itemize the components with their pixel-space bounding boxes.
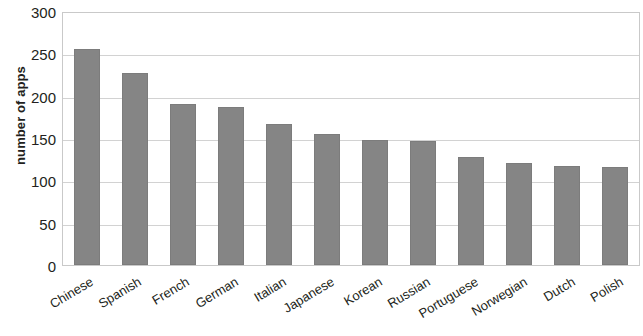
bar-slot <box>447 13 495 265</box>
y-axis-tick-labels: 300250200150100500 <box>0 0 56 336</box>
bar-slot <box>495 13 543 265</box>
bar <box>602 167 628 265</box>
y-axis-tick-label: 300 <box>0 5 56 20</box>
bar-slot <box>543 13 591 265</box>
bar <box>458 157 484 265</box>
y-axis-tick-label: 150 <box>0 132 56 147</box>
bar <box>122 73 148 265</box>
bar <box>314 134 340 265</box>
x-axis-tick-slot: Polish <box>592 268 640 336</box>
bar-slot <box>351 13 399 265</box>
bars-group <box>63 13 639 265</box>
bar-slot <box>207 13 255 265</box>
bar <box>74 49 100 265</box>
y-axis-tick-label: 200 <box>0 89 56 104</box>
bar-chart: number of apps 300250200150100500 Chines… <box>0 0 643 336</box>
bar-slot <box>399 13 447 265</box>
bar-slot <box>255 13 303 265</box>
y-axis-tick-label: 100 <box>0 174 56 189</box>
bar <box>554 166 580 265</box>
bar <box>506 163 532 265</box>
bar-slot <box>303 13 351 265</box>
plot-area <box>62 12 640 266</box>
bar <box>362 140 388 265</box>
x-axis-tick-labels: ChineseSpanishFrenchGermanItalianJapanes… <box>62 268 640 336</box>
bar-slot <box>591 13 639 265</box>
bar <box>170 104 196 265</box>
bar-slot <box>111 13 159 265</box>
y-axis-tick-label: 50 <box>0 216 56 231</box>
bar <box>410 141 436 265</box>
y-axis-tick-label: 0 <box>0 259 56 274</box>
bar-slot <box>159 13 207 265</box>
bar <box>218 107 244 265</box>
bar-slot <box>63 13 111 265</box>
bar <box>266 124 292 265</box>
y-axis-tick-label: 250 <box>0 47 56 62</box>
